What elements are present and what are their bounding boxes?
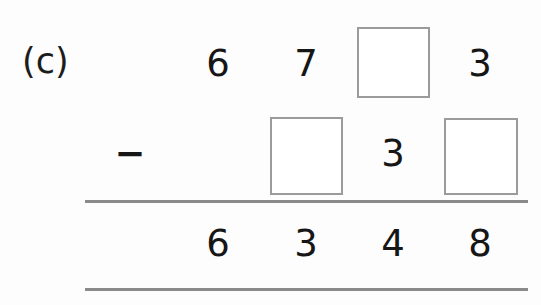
difference-digit-3: 4 <box>371 224 415 264</box>
subtraction-rule-top <box>85 200 528 203</box>
subtrahend-answer-box-4[interactable] <box>444 118 518 195</box>
minus-sign: − <box>110 134 150 174</box>
subtraction-worksheet: (c) 6 7 3 − 3 6 3 4 8 <box>0 0 541 305</box>
minuend-digit-2: 7 <box>284 44 328 84</box>
subtrahend-digit-3: 3 <box>371 134 415 174</box>
difference-digit-4: 8 <box>458 224 502 264</box>
subtrahend-answer-box-2[interactable] <box>270 117 343 195</box>
difference-digit-1: 6 <box>196 224 240 264</box>
minuend-answer-box-3[interactable] <box>357 27 430 98</box>
minuend-digit-1: 6 <box>196 44 240 84</box>
part-label: (c) <box>22 40 69 82</box>
difference-digit-2: 3 <box>284 224 328 264</box>
subtraction-rule-bottom <box>85 288 528 291</box>
minuend-digit-4: 3 <box>458 44 502 84</box>
